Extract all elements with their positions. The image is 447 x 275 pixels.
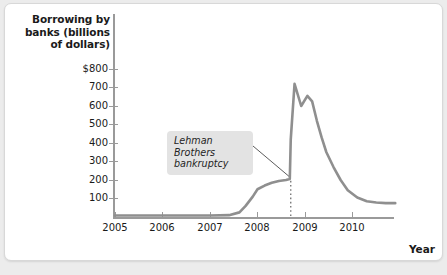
x-tick-2010 xyxy=(352,212,353,219)
y-tick-label-600: 600 xyxy=(48,100,108,111)
y-tick-200 xyxy=(109,180,118,181)
y-tick-700 xyxy=(109,87,118,88)
x-tick-2006 xyxy=(162,212,163,219)
x-tick-2009 xyxy=(305,212,306,219)
x-tick-label-2005: 2005 xyxy=(93,222,137,233)
y-axis-title-line-1: Borrowing by xyxy=(6,13,110,26)
y-tick-500 xyxy=(109,124,118,125)
x-tick-label-2010: 2010 xyxy=(330,222,374,233)
x-tick-label-2006: 2006 xyxy=(140,222,184,233)
x-tick-label-2009: 2009 xyxy=(283,222,327,233)
y-tick-800 xyxy=(109,69,118,70)
y-tick-label-300: 300 xyxy=(48,155,108,166)
y-axis-title-line-3: of dollars) xyxy=(6,38,110,51)
y-tick-label-700: 700 xyxy=(48,81,108,92)
y-tick-400 xyxy=(109,143,118,144)
y-tick-300 xyxy=(109,161,118,162)
y-tick-label-800: $800 xyxy=(48,63,108,74)
y-axis-line xyxy=(113,14,115,219)
x-tick-2005 xyxy=(115,212,116,219)
y-tick-100 xyxy=(109,198,118,199)
y-axis-title-line-2: banks (billions xyxy=(6,26,110,39)
y-tick-label-200: 200 xyxy=(48,174,108,185)
annotation-line-2: bankruptcy xyxy=(174,158,247,170)
x-tick-2007 xyxy=(210,212,211,219)
lehman-bankruptcy-annotation: Lehman Brothers bankruptcy xyxy=(167,131,253,175)
chart-figure: Borrowing by banks (billions of dollars)… xyxy=(0,0,447,275)
annotation-line-1: Lehman Brothers xyxy=(174,135,247,158)
y-tick-600 xyxy=(109,106,118,107)
x-axis-title: Year xyxy=(409,243,435,255)
x-tick-2008 xyxy=(257,212,258,219)
y-tick-label-500: 500 xyxy=(48,118,108,129)
y-tick-label-400: 400 xyxy=(48,137,108,148)
x-tick-label-2008: 2008 xyxy=(235,222,279,233)
y-tick-label-100: 100 xyxy=(48,192,108,203)
x-tick-label-2007: 2007 xyxy=(188,222,232,233)
y-axis-title: Borrowing by banks (billions of dollars) xyxy=(6,13,110,51)
